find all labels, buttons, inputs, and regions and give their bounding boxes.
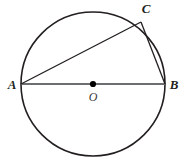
point-label-c: C [142, 1, 151, 16]
point-label-a: A [7, 77, 17, 92]
geometry-canvas: A B C O [0, 0, 184, 166]
center-label-o: O [89, 90, 98, 104]
point-label-b: B [169, 77, 179, 92]
circle-diagram-figure: A B C O [0, 0, 184, 166]
center-point-dot [90, 81, 96, 87]
